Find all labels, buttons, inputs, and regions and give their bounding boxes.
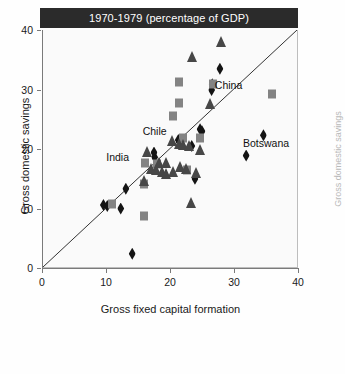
data-point-square	[268, 90, 276, 99]
data-point-triangle	[186, 197, 196, 208]
y-axis-line	[42, 30, 43, 269]
data-point-triangle	[205, 98, 215, 109]
y-tick-mark	[37, 209, 41, 210]
figure-scatter-plot: 1970-1979 (percentage of GDP) 010203040 …	[0, 0, 345, 374]
annotation-label-india: India	[106, 151, 129, 163]
y-tick-mark	[37, 90, 41, 91]
data-point-triangle	[139, 175, 149, 186]
x-tick-mark	[234, 269, 235, 273]
chart-title: 1970-1979 (percentage of GDP)	[40, 8, 298, 28]
y-tick-label: 40	[11, 24, 33, 36]
data-point-square	[108, 200, 116, 209]
data-point-triangle	[191, 167, 201, 178]
annotation-label-botswana: Botswana	[243, 137, 289, 149]
x-tick-mark	[106, 269, 107, 273]
y-tick-label: 0	[11, 262, 33, 274]
data-point-triangle	[181, 163, 191, 174]
annotation-label-china: China	[215, 79, 242, 91]
x-tick-label: 10	[100, 276, 112, 288]
data-point-square	[140, 211, 148, 220]
x-tick-label: 40	[292, 276, 304, 288]
neighbor-panel-axis-label: Gross domestic savings	[333, 86, 343, 236]
x-tick-label: 30	[228, 276, 240, 288]
data-point-square	[169, 112, 177, 121]
data-point-triangle	[216, 36, 226, 47]
y-tick-mark	[37, 268, 41, 269]
y-tick-mark	[37, 149, 41, 150]
x-tick-label: 20	[164, 276, 176, 288]
data-point-square	[196, 133, 204, 142]
data-point-triangle	[184, 140, 194, 151]
x-tick-mark	[42, 269, 43, 273]
x-tick-label: 0	[39, 276, 45, 288]
data-point-triangle	[187, 51, 197, 62]
data-point-triangle	[142, 146, 152, 157]
x-tick-mark	[170, 269, 171, 273]
x-axis-title: Gross fixed capital formation	[42, 303, 299, 315]
data-point-square	[175, 99, 183, 108]
neighbor-panel-clipped: Gross domestic savings	[331, 86, 345, 236]
annotation-label-chile: Chile	[143, 125, 167, 137]
data-point-triangle	[195, 144, 205, 155]
y-tick-mark	[37, 30, 41, 31]
data-point-square	[175, 77, 183, 86]
y-axis-title: Gross domestic savings	[19, 66, 31, 246]
x-tick-mark	[298, 269, 299, 273]
